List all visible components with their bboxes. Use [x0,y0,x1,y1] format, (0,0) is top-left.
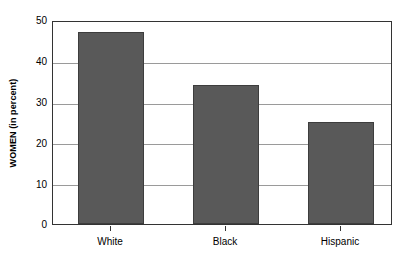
bar-chart: WOMEN (in percent) 50 40 30 20 10 0 Whit… [0,0,411,268]
y-axis-title: WOMEN (in percent) [5,21,21,225]
y-tick-label-30: 30 [26,98,47,108]
bar-white [78,32,144,224]
y-tick-label-20: 20 [26,139,47,149]
plot-area [52,21,392,225]
bar-black [193,85,259,224]
x-tick-black [225,226,226,231]
x-label-black: Black [213,236,237,248]
y-tick-label-40: 40 [26,57,47,67]
y-tick-label-0: 0 [26,220,47,230]
x-tick-hispanic [340,226,341,231]
y-tick-label-10: 10 [26,180,47,190]
y-tick-label-50: 50 [26,16,47,26]
x-label-white: White [97,236,123,248]
x-label-hispanic: Hispanic [321,236,359,248]
bar-hispanic [308,122,374,224]
x-tick-white [110,226,111,231]
y-axis-tick-labels: 50 40 30 20 10 0 [26,0,47,268]
